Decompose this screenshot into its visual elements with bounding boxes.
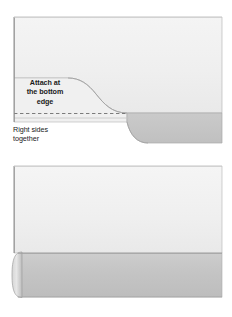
caption-attach-bottom-edge: Attach at the bottom edge xyxy=(14,78,76,106)
rolled-fold-shape xyxy=(12,252,22,298)
folding-instruction-figure: Attach at the bottom edge Right sides to… xyxy=(0,0,232,317)
panel-attach-bottom-edge: Attach at the bottom edge Right sides to… xyxy=(0,0,232,158)
caption-right-sides-together: Right sides together xyxy=(13,125,93,144)
fabric-main-shape xyxy=(14,166,222,253)
fabric-folded-band-shape xyxy=(18,253,222,297)
fabric-folded-band-shape xyxy=(127,113,222,143)
panel-press-fold-under: Press the fold under at the back xyxy=(0,158,232,317)
panel-2-artwork xyxy=(0,158,232,317)
